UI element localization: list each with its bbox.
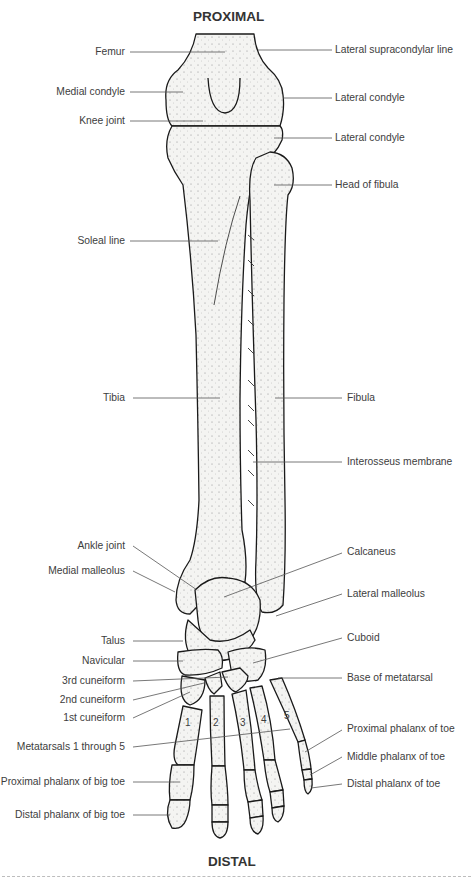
label-ankle-joint: Ankle joint bbox=[77, 540, 125, 552]
label-lateral-condyle-tibia: Lateral condyle bbox=[335, 132, 405, 144]
label-distal-phalanx-big-toe: Distal phalanx of big toe bbox=[15, 809, 125, 821]
label-talus: Talus bbox=[101, 635, 125, 647]
label-calcaneus: Calcaneus bbox=[347, 546, 396, 558]
label-interosseus-membrane: Interosseus membrane bbox=[347, 456, 452, 468]
label-3rd-cuneiform: 3rd cuneiform bbox=[62, 675, 125, 687]
label-2nd-cuneiform: 2nd cuneiform bbox=[60, 694, 125, 706]
label-medial-malleolus: Medial malleolus bbox=[48, 565, 125, 577]
label-distal-phalanx-toe: Distal phalanx of toe bbox=[347, 778, 440, 790]
label-lateral-malleolus: Lateral malleolus bbox=[347, 588, 425, 600]
label-proximal-phalanx-toe: Proximal phalanx of toe bbox=[347, 723, 455, 735]
label-femur: Femur bbox=[95, 46, 125, 58]
label-fibula: Fibula bbox=[347, 392, 375, 404]
label-lateral-supracondylar-line: Lateral supracondylar line bbox=[335, 44, 453, 56]
label-1st-cuneiform: 1st cuneiform bbox=[63, 712, 125, 724]
label-metatarsals: Metatarsals 1 through 5 bbox=[17, 741, 125, 753]
femur-shape bbox=[166, 34, 284, 126]
metatarsal-number-5: 5 bbox=[284, 710, 290, 722]
label-navicular: Navicular bbox=[82, 655, 125, 667]
metatarsal-number-2: 2 bbox=[213, 717, 219, 729]
fibula-shape bbox=[250, 152, 294, 613]
label-base-of-metatarsal: Base of metatarsal bbox=[347, 672, 433, 684]
label-medial-condyle: Medial condyle bbox=[56, 86, 125, 98]
metatarsal-number-4: 4 bbox=[261, 714, 267, 726]
label-tibia: Tibia bbox=[103, 392, 125, 404]
label-cuboid: Cuboid bbox=[347, 632, 380, 644]
metatarsal-number-3: 3 bbox=[240, 717, 246, 729]
label-knee-joint: Knee joint bbox=[79, 115, 125, 127]
label-soleal-line: Soleal line bbox=[77, 235, 125, 247]
label-head-of-fibula: Head of fibula bbox=[335, 179, 399, 191]
label-proximal-phalanx-big-toe: Proximal phalanx of big toe bbox=[1, 776, 125, 788]
label-lateral-condyle-femur: Lateral condyle bbox=[335, 92, 405, 104]
label-middle-phalanx-toe: Middle phalanx of toe bbox=[347, 751, 445, 763]
navicular-shape bbox=[178, 649, 223, 675]
bottom-dashed-divider bbox=[2, 876, 471, 877]
metatarsal-number-1: 1 bbox=[185, 717, 191, 729]
